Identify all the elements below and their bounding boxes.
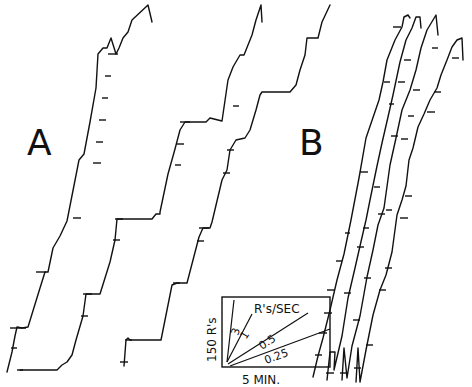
rate-title: R's/SEC [254,302,300,316]
panel-b-label: B [299,122,324,163]
panel-a-label: A [27,122,52,163]
key-labels: R's/SEC 3 1 0.5 0.25 150 R's 5 MIN. [0,0,472,387]
y-scale-label: 150 R's [205,317,219,362]
rate-1-label: 1 [238,329,253,342]
x-scale-label: 5 MIN. [242,373,280,387]
cumulative-record-figure: R's/SEC 3 1 0.5 0.25 150 R's 5 MIN. A B [0,0,472,387]
